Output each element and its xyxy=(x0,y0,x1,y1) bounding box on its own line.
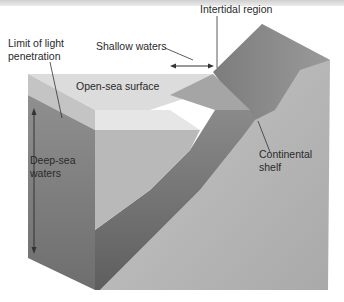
label-intertidal: Intertidal region xyxy=(200,3,272,15)
label-deep-2: waters xyxy=(30,167,61,179)
arrow-head-right-icon xyxy=(208,64,214,69)
label-deep-1: Deep-sea xyxy=(30,154,76,166)
light-band-front xyxy=(95,110,200,130)
label-shallow: Shallow waters xyxy=(96,40,167,52)
arrow-head-left-icon xyxy=(170,64,176,69)
shallow-pointer xyxy=(165,48,193,60)
label-open-sea: Open-sea surface xyxy=(76,80,159,92)
label-limit-2: penetration xyxy=(8,50,61,62)
label-shelf-2: shelf xyxy=(259,161,281,173)
label-limit-1: Limit of light xyxy=(8,37,64,49)
label-shelf-1: Continental xyxy=(259,148,312,160)
